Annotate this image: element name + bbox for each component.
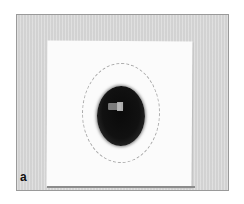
specular-highlight-bright <box>117 102 123 111</box>
white-card <box>46 40 192 187</box>
panel-label: a <box>20 170 27 184</box>
card-edge-shadow <box>47 186 195 188</box>
photo-frame <box>16 14 229 191</box>
dark-oval-object <box>97 86 145 146</box>
